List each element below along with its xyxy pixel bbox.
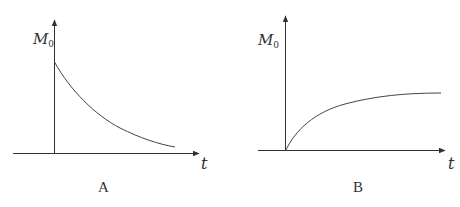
chart-a-y-label-text: M <box>33 30 48 48</box>
chart-a-decay-curve <box>55 62 176 147</box>
chart-a-caption: A <box>98 179 109 196</box>
chart-b-caption: B <box>353 179 363 196</box>
chart-b-growth-curve <box>286 93 442 151</box>
chart-a-x-axis-label: t <box>201 154 207 173</box>
chart-b-y-label-text: M <box>258 31 273 49</box>
chart-b <box>258 16 445 151</box>
chart-b-y-axis-label: M0 <box>258 31 279 50</box>
chart-a-y-label-subscript: 0 <box>48 39 54 49</box>
chart-b-y-label-subscript: 0 <box>273 40 279 50</box>
chart-b-x-axis-label: t <box>448 154 454 173</box>
chart-a-y-axis-label: M0 <box>33 30 54 49</box>
diagram-canvas <box>0 0 460 207</box>
